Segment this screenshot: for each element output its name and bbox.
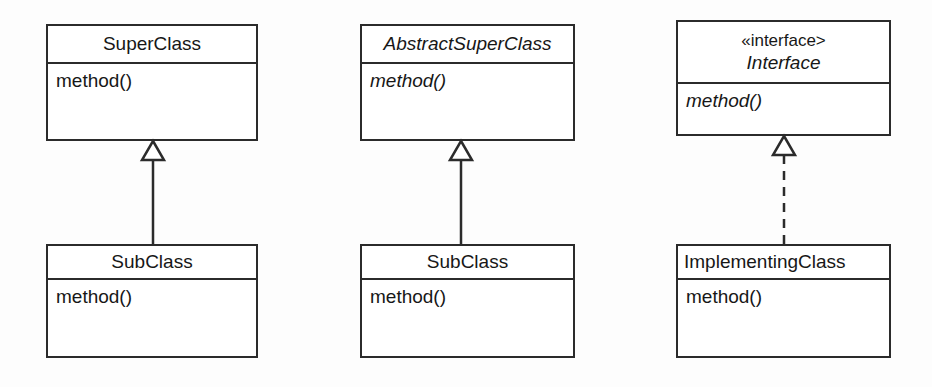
class-header-abstractsuperclass: AbstractSuperClass: [362, 26, 573, 64]
class-name-interface: Interface: [747, 51, 821, 75]
class-box-implementingclass[interactable]: ImplementingClass method(): [676, 244, 891, 358]
class-members-abstractsuperclass: method(): [362, 64, 573, 139]
generalization-connector-1: [130, 139, 176, 246]
class-box-subclass-1[interactable]: SubClass method(): [46, 244, 258, 358]
class-header-subclass-2: SubClass: [362, 246, 573, 280]
class-members-interface: method(): [678, 84, 889, 134]
uml-diagram-canvas: SuperClass method() SubClass method() Ab…: [0, 0, 932, 387]
class-box-abstractsuperclass[interactable]: AbstractSuperClass method(): [360, 24, 575, 141]
class-name-implementingclass: ImplementingClass: [684, 250, 846, 274]
hollow-triangle-arrowhead-2: [450, 141, 472, 160]
class-box-interface[interactable]: «interface> Interface method(): [676, 20, 891, 136]
class-members-subclass-1: method(): [48, 280, 256, 356]
class-header-subclass-1: SubClass: [48, 246, 256, 280]
generalization-connector-2: [438, 139, 484, 246]
class-name-subclass-2: SubClass: [427, 250, 508, 274]
realization-connector-3: [761, 134, 807, 246]
member-method: method(): [56, 285, 248, 309]
stereotype-interface: «interface>: [741, 30, 826, 51]
hollow-triangle-arrowhead-3: [773, 136, 795, 155]
class-members-superclass: method(): [48, 64, 256, 139]
hollow-triangle-arrowhead-1: [142, 141, 164, 160]
member-method: method(): [370, 285, 565, 309]
class-header-superclass: SuperClass: [48, 26, 256, 64]
member-method: method(): [686, 285, 881, 309]
member-method: method(): [686, 89, 881, 113]
class-box-superclass[interactable]: SuperClass method(): [46, 24, 258, 141]
class-header-implementingclass: ImplementingClass: [678, 246, 889, 280]
class-name-subclass-1: SubClass: [111, 250, 192, 274]
class-name-abstractsuperclass: AbstractSuperClass: [384, 32, 552, 56]
class-box-subclass-2[interactable]: SubClass method(): [360, 244, 575, 358]
class-header-interface: «interface> Interface: [678, 22, 889, 84]
class-members-implementingclass: method(): [678, 280, 889, 356]
class-name-superclass: SuperClass: [103, 32, 201, 56]
member-method: method(): [56, 69, 248, 93]
class-members-subclass-2: method(): [362, 280, 573, 356]
member-method: method(): [370, 69, 565, 93]
